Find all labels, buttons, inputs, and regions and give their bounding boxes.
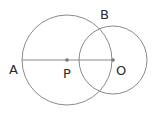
label-O: O — [116, 63, 126, 78]
label-B: B — [100, 7, 109, 22]
label-A: A — [9, 62, 18, 77]
point-P-dot — [65, 58, 69, 62]
geometry-diagram: A P O B — [0, 0, 157, 113]
label-P: P — [63, 66, 71, 81]
point-O-dot — [111, 58, 115, 62]
